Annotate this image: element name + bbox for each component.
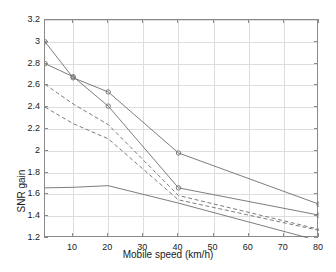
y-tick-label: 3 — [0, 37, 40, 46]
x-axis-label: Mobile speed (km/h) — [0, 250, 336, 260]
y-tick-label: 2 — [0, 146, 40, 155]
x-tick-mark-top — [177, 19, 178, 23]
y-tick-label: 2.2 — [0, 124, 40, 133]
y-axis-label-wrap: SNR gain — [10, 90, 24, 150]
y-tick-mark — [44, 19, 48, 20]
y-tick-mark-right — [314, 106, 318, 107]
y-tick-mark — [44, 84, 48, 85]
x-tick-mark-top — [107, 19, 108, 23]
y-tick-mark — [44, 106, 48, 107]
y-tick-mark — [44, 128, 48, 129]
y-tick-label: 2.8 — [0, 59, 40, 68]
series-line-solid-upper-circles — [45, 42, 319, 204]
y-tick-label: 1.8 — [0, 168, 40, 177]
chart-figure: SNR gain 1.21.41.61.822.22.42.62.833.210… — [0, 0, 336, 272]
x-tick-mark — [142, 233, 143, 237]
x-tick-mark-top — [213, 19, 214, 23]
series-line-dashed-lower — [45, 107, 319, 230]
x-tick-mark — [72, 233, 73, 237]
y-tick-label: 2.4 — [0, 102, 40, 111]
y-tick-mark — [44, 237, 48, 238]
y-tick-mark-right — [314, 63, 318, 64]
x-tick-mark — [177, 233, 178, 237]
x-tick-mark-top — [283, 19, 284, 23]
y-tick-label: 1.6 — [0, 189, 40, 198]
x-tick-mark-top — [72, 19, 73, 23]
x-tick-mark-top — [142, 19, 143, 23]
y-tick-mark — [44, 41, 48, 42]
y-tick-label: 1.2 — [0, 233, 40, 242]
y-tick-mark-right — [314, 41, 318, 42]
y-tick-mark — [44, 193, 48, 194]
y-tick-mark — [44, 150, 48, 151]
y-tick-mark-right — [314, 237, 318, 238]
y-tick-mark — [44, 63, 48, 64]
x-tick-mark-top — [248, 19, 249, 23]
plot-area — [44, 19, 318, 237]
x-tick-mark — [248, 233, 249, 237]
y-tick-mark-right — [314, 84, 318, 85]
y-tick-mark — [44, 215, 48, 216]
y-tick-mark-right — [314, 193, 318, 194]
y-tick-label: 2.6 — [0, 80, 40, 89]
y-tick-mark-right — [314, 150, 318, 151]
x-tick-mark — [213, 233, 214, 237]
x-tick-mark — [283, 233, 284, 237]
y-tick-mark-right — [314, 215, 318, 216]
series-line-solid-lower-circles — [45, 64, 319, 216]
y-tick-mark-right — [314, 172, 318, 173]
x-tick-mark — [107, 233, 108, 237]
x-tick-mark — [318, 233, 319, 237]
y-tick-mark — [44, 172, 48, 173]
y-tick-label: 1.4 — [0, 211, 40, 220]
x-tick-mark-top — [318, 19, 319, 23]
series-layer — [45, 20, 319, 238]
y-tick-mark-right — [314, 128, 318, 129]
y-tick-label: 3.2 — [0, 15, 40, 24]
